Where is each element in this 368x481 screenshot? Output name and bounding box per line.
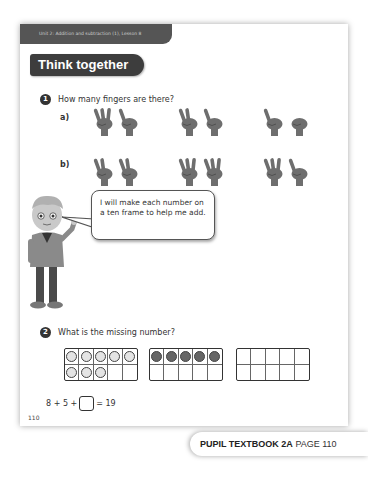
ten-frame-cell (164, 365, 178, 381)
hand-icon (118, 157, 141, 187)
counter-icon (109, 351, 120, 362)
question-number-badge: 1 (40, 94, 51, 105)
hand-icon (263, 107, 286, 137)
counter-icon (124, 351, 135, 362)
ten-frame-cell (193, 349, 207, 365)
ten-frame-cell (65, 365, 79, 381)
ten-frame-cell (280, 349, 294, 365)
ten-frame-cell (108, 365, 122, 381)
book-title: PUPIL TEXTBOOK 2A (200, 439, 293, 449)
hand-pair (93, 157, 141, 187)
ten-frame-cell (251, 365, 265, 381)
ten-frame-cell (94, 349, 108, 365)
ten-frame-cell (295, 349, 309, 365)
hand-icon (203, 157, 226, 187)
ten-frame-cell (237, 349, 251, 365)
counter-icon (95, 367, 106, 378)
ten-frame-cell (295, 365, 309, 381)
hand-icon (288, 157, 311, 187)
footer-page: PAGE 110 (295, 439, 336, 449)
ten-frame-cell (208, 349, 222, 365)
question-text: What is the missing number? (58, 328, 175, 337)
counter-icon (81, 351, 92, 362)
ten-frame-cell (150, 349, 164, 365)
ten-frame-cell (208, 365, 222, 381)
hand-pair (178, 157, 226, 187)
ten-frame-cell (164, 349, 178, 365)
ten-frame-cell (123, 365, 137, 381)
page-number: 110 (28, 414, 39, 421)
textbook-footer-label: PUPIL TEXTBOOK 2A PAGE 110 (190, 432, 368, 456)
part-label-b: b) (60, 160, 69, 169)
ten-frame-cell (179, 365, 193, 381)
ten-frame-cell (79, 349, 93, 365)
ten-frame-cell (94, 365, 108, 381)
counter-icon (66, 351, 77, 362)
boy-character-illustration (22, 193, 78, 311)
ten-frame-cell (150, 365, 164, 381)
ten-frame (236, 348, 310, 381)
equation-right: = 19 (96, 399, 115, 408)
hand-pair (263, 157, 311, 187)
counter-icon (81, 367, 92, 378)
ten-frame-cell (79, 365, 93, 381)
ten-frame-cell (237, 365, 251, 381)
speech-bubble: I will make each number on a ten frame t… (91, 190, 215, 240)
equation: 8 + 5 + = 19 (46, 396, 116, 411)
question-text: How many fingers are there? (58, 95, 174, 104)
ten-frame-cell (179, 349, 193, 365)
ten-frame-cell (65, 349, 79, 365)
hand-pair (93, 107, 141, 137)
hand-pair (263, 107, 311, 137)
unit-label: Unit 2: Addition and subtraction (1), Le… (20, 24, 172, 44)
ten-frame-cell (280, 365, 294, 381)
ten-frame (64, 348, 138, 381)
hand-icon (93, 157, 116, 187)
hand-icon (178, 157, 201, 187)
question-number-badge: 2 (40, 327, 51, 338)
equation-left: 8 + 5 + (46, 399, 77, 408)
counter-icon (209, 351, 220, 362)
ten-frame-cell (266, 349, 280, 365)
ten-frame-cell (123, 349, 137, 365)
ten-frame-cell (266, 365, 280, 381)
hand-icon (93, 107, 116, 137)
ten-frame-cell (193, 365, 207, 381)
counter-icon (180, 351, 191, 362)
section-title: Think together (30, 54, 144, 76)
counter-icon (166, 351, 177, 362)
hand-icon (263, 157, 286, 187)
counter-icon (95, 351, 106, 362)
hand-icon (118, 107, 141, 137)
hand-pair (178, 107, 226, 137)
part-label-a: a) (60, 113, 69, 122)
counter-icon (66, 367, 77, 378)
counter-icon (151, 351, 162, 362)
hand-icon (203, 107, 226, 137)
hand-icon (178, 107, 201, 137)
ten-frame-cell (108, 349, 122, 365)
ten-frame-cell (251, 349, 265, 365)
ten-frame (149, 348, 223, 381)
missing-number-box[interactable] (79, 396, 94, 411)
counter-icon (194, 351, 205, 362)
hand-icon (288, 107, 311, 137)
